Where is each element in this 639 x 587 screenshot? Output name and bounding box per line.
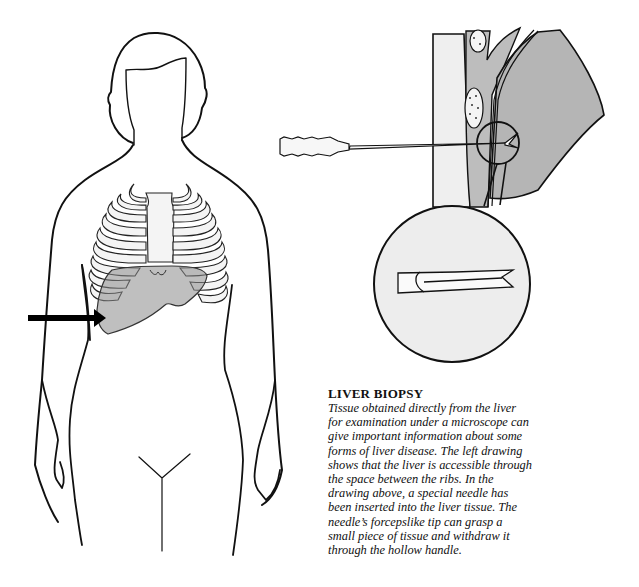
caption-line: for examination under a microscope can [328,415,628,429]
left-rib-1 [129,184,146,202]
liver-shape [97,266,207,334]
caption-line: forms of liver disease. The left drawing [328,444,628,458]
caption-line: needle’s forcepslike tip can grasp a [328,515,628,529]
skin-layer [433,34,470,207]
cross-section [280,28,604,362]
groin-lines [139,454,190,551]
sternum [146,193,174,262]
torso-right-outline [182,140,282,505]
figure-caption: LIVER BIOPSY Tissue obtained directly fr… [328,387,628,557]
rib-section-1 [470,30,486,52]
caption-line: Tissue obtained directly from the liver [328,401,628,415]
needle-handle [280,137,349,156]
right-arm-inner [224,285,243,555]
caption-line: through the hollow handle. [328,543,628,557]
caption-line: drawing above, a special needle has [328,486,628,500]
right-rib-1 [173,184,191,202]
caption-line: been inserted into the liver tissue. The [328,500,628,514]
left-hand [42,380,64,488]
caption-line: shows that the liver is accessible throu… [328,458,628,472]
left-arm-inner [69,265,88,545]
rib-section-2 [465,88,483,128]
arrow-icon [28,309,106,327]
head-outline [108,33,206,143]
face-outline [126,58,186,145]
caption-line: give important information about some [328,429,628,443]
caption-line: the space between the ribs. In the [328,472,628,486]
caption-line: small piece of tissue and withdraw it [328,529,628,543]
caption-title: LIVER BIOPSY [328,387,628,401]
